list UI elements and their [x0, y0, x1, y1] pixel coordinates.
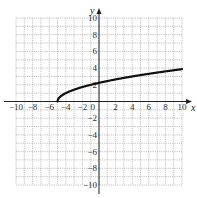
y-axis-arrow-icon — [97, 8, 102, 14]
y-tick-label: −8 — [87, 163, 97, 173]
x-tick-label: 0 — [91, 102, 96, 112]
x-tick-label: 6 — [147, 102, 152, 112]
x-tick-label: 4 — [130, 102, 135, 112]
y-tick-label: 4 — [93, 63, 98, 73]
y-tick-label: −6 — [87, 147, 97, 157]
x-tick-label: 10 — [178, 102, 188, 112]
x-tick-label: −6 — [44, 102, 54, 112]
x-tick-label: −2 — [78, 102, 88, 112]
sqrt-curve — [58, 69, 183, 101]
y-tick-label: 6 — [93, 46, 98, 56]
x-tick-label: −4 — [61, 102, 71, 112]
x-axis-label: x — [190, 102, 196, 113]
y-tick-label: −4 — [87, 130, 97, 140]
x-tick-label: 2 — [113, 102, 118, 112]
y-tick-label: 10 — [88, 13, 98, 23]
y-tick-label: −10 — [83, 180, 98, 190]
x-tick-label: −10 — [9, 102, 24, 112]
function-graph: x y −10−8−6−4−20246810 −10−8−6−4−2246810 — [0, 0, 197, 198]
x-tick-label: 8 — [163, 102, 168, 112]
y-tick-label: 8 — [93, 30, 98, 40]
x-tick-label: −8 — [28, 102, 38, 112]
y-tick-label: −2 — [87, 113, 97, 123]
